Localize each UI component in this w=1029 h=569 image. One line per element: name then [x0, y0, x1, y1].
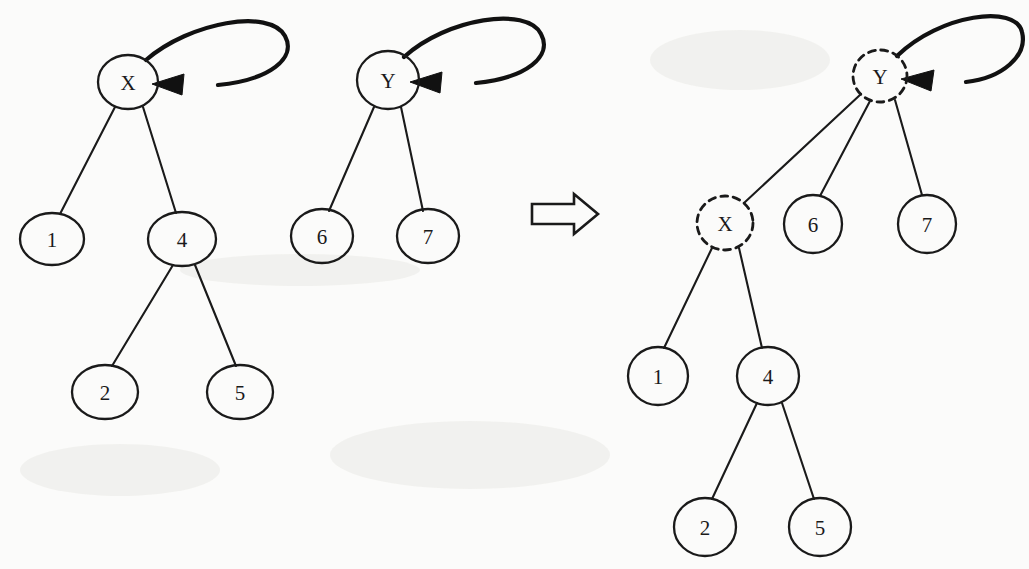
- edge-4-5-merged: [782, 403, 814, 499]
- node-label-2-left: 2: [100, 381, 111, 405]
- node-label-7-merged: 7: [922, 213, 933, 237]
- edges-tree-y: [329, 107, 423, 211]
- node-Y-merged: Y: [853, 50, 907, 102]
- node-label-X: X: [120, 71, 135, 95]
- edge-Y-7-merged: [895, 100, 922, 195]
- after-tree-merged: Y X 6 7 1 4: [628, 16, 1023, 556]
- edge-Y-7: [401, 107, 423, 211]
- edge-X-4: [143, 107, 176, 213]
- self-loop-Y: [404, 19, 544, 93]
- self-loop-Y-merged: [897, 16, 1023, 91]
- edge-X-1-merged: [664, 248, 712, 348]
- node-label-5-left: 5: [235, 381, 246, 405]
- node-X-merged: X: [697, 196, 753, 250]
- node-5-left: 5: [207, 365, 273, 419]
- transform-arrow-icon: [532, 194, 598, 234]
- node-label-1-left: 1: [47, 228, 58, 252]
- node-2-left: 2: [72, 365, 138, 419]
- node-7-merged: 7: [898, 195, 956, 253]
- edge-Y-X-merged: [744, 94, 861, 203]
- node-label-4-merged: 4: [763, 365, 774, 389]
- edge-4-2-merged: [712, 403, 757, 499]
- node-6-merged: 6: [784, 195, 842, 253]
- diagram-canvas: X 1 4 2 5: [0, 0, 1029, 569]
- node-Y-left: Y: [357, 51, 419, 109]
- edge-Y-6: [329, 107, 374, 211]
- node-1-merged: 1: [628, 347, 688, 405]
- diagram-svg: X 1 4 2 5: [0, 0, 1029, 569]
- edge-Y-6-merged: [820, 101, 870, 196]
- node-7-left: 7: [397, 209, 459, 263]
- node-label-5-merged: 5: [815, 516, 826, 540]
- node-label-2-merged: 2: [700, 516, 711, 540]
- node-2-merged: 2: [674, 498, 736, 556]
- node-label-4-left: 4: [177, 228, 188, 252]
- node-4-left: 4: [148, 212, 216, 266]
- node-label-Y-left: Y: [380, 69, 395, 93]
- node-X: X: [98, 55, 158, 109]
- node-label-7-left: 7: [423, 225, 434, 249]
- edges-merged-tree: [664, 94, 922, 499]
- node-label-X-merged: X: [717, 212, 732, 236]
- node-1-left: 1: [20, 213, 84, 265]
- node-label-6-merged: 6: [808, 213, 819, 237]
- edge-X-1: [60, 107, 115, 214]
- node-label-6-left: 6: [317, 225, 328, 249]
- node-5-merged: 5: [789, 498, 851, 556]
- edge-X-4-merged: [739, 248, 762, 348]
- node-4-merged: 4: [737, 347, 799, 405]
- edge-4-2: [112, 265, 173, 366]
- node-label-1-merged: 1: [653, 365, 664, 389]
- node-label-Y-merged: Y: [872, 65, 887, 89]
- before-tree-y: Y 6 7: [291, 19, 544, 263]
- self-loop-X: [146, 21, 288, 95]
- before-tree-x: X 1 4 2 5: [20, 21, 288, 419]
